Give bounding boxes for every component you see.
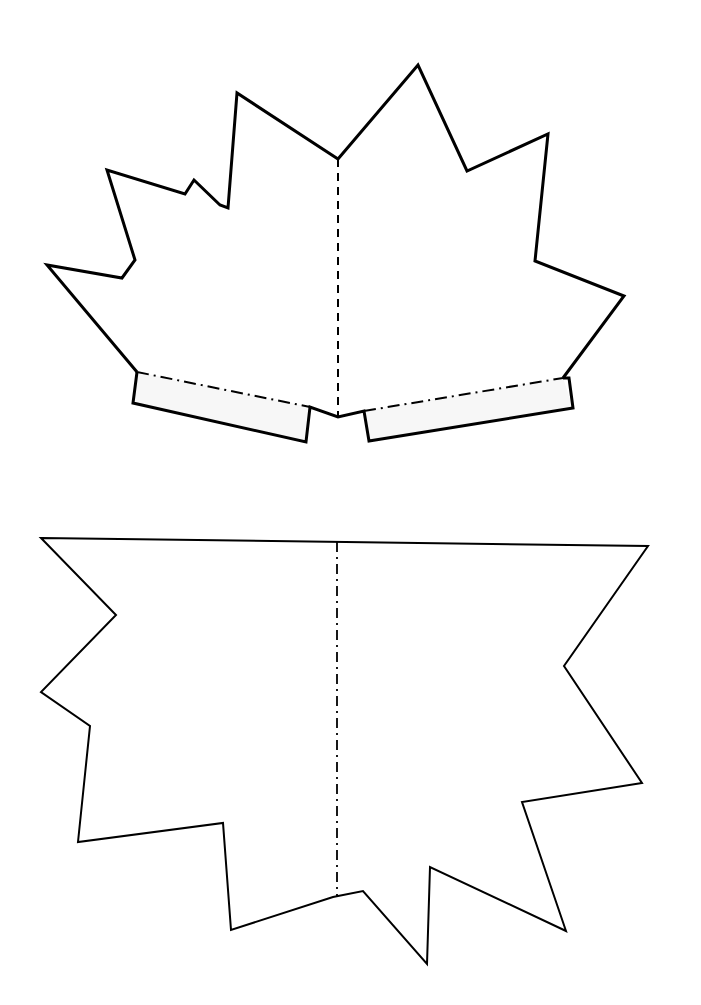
papercraft-template: [0, 0, 701, 1005]
top-piece-right-tab: [364, 378, 573, 441]
top-piece-left-tab: [133, 372, 310, 442]
bottom-piece-outline: [41, 538, 648, 964]
top-piece-body-outline: [47, 65, 624, 378]
bottom-piece: [41, 538, 648, 964]
top-piece: [47, 65, 624, 442]
